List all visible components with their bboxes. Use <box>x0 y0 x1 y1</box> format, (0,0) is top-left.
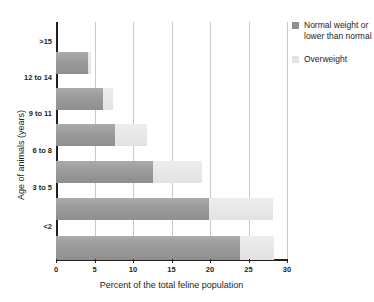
y-tick-label-4: 3 to 5 <box>32 183 52 192</box>
legend-label-normal-weight: Normal weight or lower than normal <box>304 20 372 41</box>
bar-segment-normal <box>56 124 115 146</box>
x-tick-label-3: 15 <box>167 265 175 274</box>
chart-legend: Normal weight or lower than normal Overw… <box>292 20 372 78</box>
bar-row <box>56 161 202 183</box>
bar-row <box>56 88 113 110</box>
legend-item-overweight: Overweight <box>292 54 372 65</box>
x-tick-label-6: 30 <box>283 265 291 274</box>
x-tick-20 <box>210 259 211 263</box>
x-tick-label-0: 0 <box>54 265 58 274</box>
bar-segment-normal <box>56 198 209 220</box>
plot-area <box>56 22 287 259</box>
gridline-15 <box>172 22 173 259</box>
x-tick-label-4: 20 <box>206 265 214 274</box>
legend-label-overweight: Overweight <box>304 54 347 65</box>
x-tick-label-1: 5 <box>92 265 96 274</box>
y-tick-label-0: >15 <box>39 37 52 46</box>
legend-item-normal-weight: Normal weight or lower than normal <box>292 20 372 41</box>
y-axis-tick-labels: >15 12 to 14 9 to 11 6 to 8 3 to 5 <2 <box>0 0 52 302</box>
bar-row <box>56 198 273 220</box>
x-tick-25 <box>249 259 250 263</box>
bar-segment-overweight <box>88 52 91 74</box>
bar-segment-normal <box>56 52 88 74</box>
gridline-25 <box>249 22 250 259</box>
x-tick-30 <box>287 259 288 263</box>
x-tick-0 <box>56 259 57 263</box>
y-tick-label-1: 12 to 14 <box>24 73 52 82</box>
x-tick-5 <box>95 259 96 263</box>
legend-swatch-icon-overweight <box>292 56 299 63</box>
y-tick-label-2: 9 to 11 <box>29 109 52 118</box>
gridline-30 <box>287 22 288 259</box>
x-tick-label-2: 10 <box>129 265 137 274</box>
bar-segment-overweight <box>115 124 147 146</box>
bar-segment-overweight <box>103 88 113 110</box>
gridline-20 <box>210 22 211 259</box>
feline-weight-bar-chart: Age of animals (years) >15 12 to 14 9 to… <box>0 0 374 302</box>
bar-row <box>56 52 91 74</box>
bar-segment-normal <box>56 88 103 110</box>
x-tick-label-5: 25 <box>244 265 252 274</box>
x-axis-title: Percent of the total feline population <box>56 280 287 290</box>
bar-segment-overweight <box>209 198 273 220</box>
x-tick-10 <box>133 259 134 263</box>
bar-row <box>56 236 274 260</box>
x-tick-15 <box>172 259 173 263</box>
y-tick-label-3: 6 to 8 <box>32 146 52 155</box>
legend-swatch-icon-normal-weight <box>292 22 299 29</box>
bar-segment-normal <box>56 236 240 260</box>
bar-segment-overweight <box>240 236 274 260</box>
y-tick-label-5: <2 <box>43 222 52 231</box>
bar-row <box>56 124 147 146</box>
bar-segment-overweight <box>153 161 202 183</box>
bar-segment-normal <box>56 161 153 183</box>
